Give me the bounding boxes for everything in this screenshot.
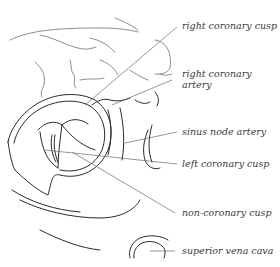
aortic-root-outlines <box>8 92 168 258</box>
label-right-coronary-artery-line1: right coronary <box>182 68 252 79</box>
leader-right-coronary-artery <box>112 80 172 105</box>
leader-left-coronary-cusp <box>45 150 177 164</box>
label-sinus-node-artery: sinus node artery <box>182 126 266 137</box>
leader-sinus-node-artery <box>125 132 177 143</box>
anatomy-diagram: right coronary cusp right coronary arter… <box>0 0 280 267</box>
background-tissue-lines <box>10 18 172 97</box>
label-right-coronary-artery-line2: artery <box>182 79 212 90</box>
label-non-coronary-cusp: non-coronary cusp <box>182 207 272 218</box>
label-left-coronary-cusp: left coronary cusp <box>182 158 269 169</box>
leader-right-coronary-cusp <box>85 27 177 105</box>
label-superior-vena-cava: superior vena cava <box>182 245 273 256</box>
label-right-coronary-cusp: right coronary cusp <box>182 20 277 31</box>
leader-non-coronary-cusp <box>72 152 175 213</box>
